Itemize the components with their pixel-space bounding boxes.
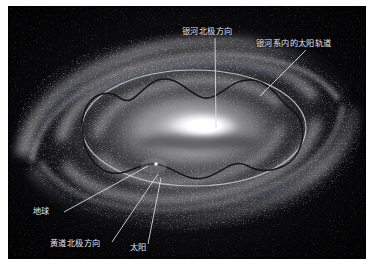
label-solar-orbit-in-galaxy: 银河系内的太阳轨道	[256, 38, 332, 48]
label-ecliptic-north-pole: 黄道北极方向	[50, 238, 100, 248]
sun-position-marker	[141, 158, 167, 174]
label-galactic-north-pole: 银河北极方向	[182, 26, 232, 36]
label-earth: 地球	[33, 206, 50, 216]
label-sun: 太阳	[130, 242, 147, 252]
galaxy-illustration-plate: 银河北极方向 银河系内的太阳轨道 地球 黄道北极方向 太阳	[8, 6, 366, 259]
figure-page: 银河北极方向 银河系内的太阳轨道 地球 黄道北极方向 太阳	[0, 0, 375, 271]
